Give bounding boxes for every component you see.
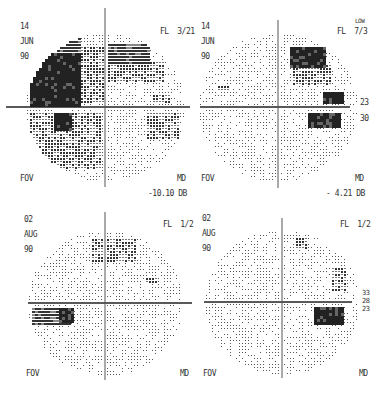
grayscale-plots bbox=[0, 0, 389, 398]
